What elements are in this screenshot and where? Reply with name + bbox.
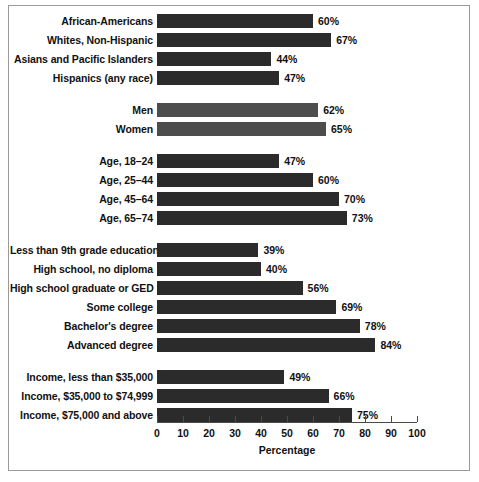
bar-value-label: 47%	[284, 154, 305, 168]
bar-row: Age, 45–6470%	[0, 192, 479, 206]
bar-value-label: 75%	[357, 408, 378, 422]
bar-row: Age, 65–7473%	[0, 211, 479, 225]
bar	[157, 408, 352, 422]
bar-row: Hispanics (any race)47%	[0, 71, 479, 85]
bar-value-label: 65%	[331, 122, 352, 136]
bar-category-label: High school, no diploma	[10, 262, 153, 276]
bar-value-label: 49%	[289, 370, 310, 384]
bar-category-label: Advanced degree	[10, 338, 153, 352]
bar	[157, 319, 360, 333]
chart-figure: African-Americans60%Whites, Non-Hispanic…	[0, 0, 479, 482]
x-tick	[235, 416, 236, 422]
bar-value-label: 66%	[334, 389, 355, 403]
bar-category-label: Less than 9th grade education	[10, 243, 153, 257]
bar	[157, 192, 339, 206]
x-tick	[339, 416, 340, 422]
bar-row: Age, 25–4460%	[0, 173, 479, 187]
bar-category-label: Bachelor's degree	[10, 319, 153, 333]
bar-value-label: 62%	[323, 103, 344, 117]
bar	[157, 370, 284, 384]
bar-row: Women65%	[0, 122, 479, 136]
bar-value-label: 73%	[352, 211, 373, 225]
bar-category-label: Age, 25–44	[10, 173, 153, 187]
bar	[157, 389, 329, 403]
x-tick	[287, 416, 288, 422]
bar-category-label: Income, $75,000 and above	[10, 408, 153, 422]
bar-value-label: 60%	[318, 173, 339, 187]
bar-row: Some college69%	[0, 300, 479, 314]
bar	[157, 103, 318, 117]
bar-category-label: Income, less than $35,000	[10, 370, 153, 384]
bar-value-label: 69%	[341, 300, 362, 314]
x-tick	[157, 416, 158, 422]
bar-row: Bachelor's degree78%	[0, 319, 479, 333]
bar-row: Income, $75,000 and above75%	[0, 408, 479, 422]
x-tick	[209, 416, 210, 422]
bar	[157, 281, 303, 295]
plot-area: African-Americans60%Whites, Non-Hispanic…	[0, 0, 479, 482]
bar	[157, 243, 258, 257]
bar-value-label: 84%	[380, 338, 401, 352]
x-tick	[183, 416, 184, 422]
x-tick	[313, 416, 314, 422]
bar-row: Age, 18–2447%	[0, 154, 479, 168]
bar-row: High school, no diploma40%	[0, 262, 479, 276]
bar	[157, 338, 375, 352]
bar-value-label: 78%	[365, 319, 386, 333]
bar	[157, 154, 279, 168]
bar-row: Income, less than $35,00049%	[0, 370, 479, 384]
bar	[157, 173, 313, 187]
bar-category-label: Hispanics (any race)	[10, 71, 153, 85]
bar-value-label: 56%	[308, 281, 329, 295]
x-tick	[391, 416, 392, 422]
bar-row: Men62%	[0, 103, 479, 117]
bar-value-label: 44%	[276, 52, 297, 66]
bar	[157, 211, 347, 225]
bar	[157, 14, 313, 28]
bar-value-label: 67%	[336, 33, 357, 47]
bar-row: High school graduate or GED56%	[0, 281, 479, 295]
bar	[157, 262, 261, 276]
bar-row: Whites, Non-Hispanic67%	[0, 33, 479, 47]
x-tick	[365, 416, 366, 422]
bar-category-label: Income, $35,000 to $74,999	[10, 389, 153, 403]
bar	[157, 52, 271, 66]
x-axis-title: Percentage	[157, 444, 417, 456]
bar	[157, 71, 279, 85]
bar-row: Asians and Pacific Islanders44%	[0, 52, 479, 66]
bar	[157, 33, 331, 47]
x-tick	[261, 416, 262, 422]
bar-category-label: Asians and Pacific Islanders	[10, 52, 153, 66]
bar-value-label: 39%	[263, 243, 284, 257]
bar-category-label: Age, 45–64	[10, 192, 153, 206]
x-tick	[417, 416, 418, 422]
bar-category-label: Some college	[10, 300, 153, 314]
bar-value-label: 70%	[344, 192, 365, 206]
bar-row: Advanced degree84%	[0, 338, 479, 352]
bar-category-label: Age, 65–74	[10, 211, 153, 225]
bar-row: Income, $35,000 to $74,99966%	[0, 389, 479, 403]
bar-category-label: High school graduate or GED	[10, 281, 153, 295]
bar-value-label: 60%	[318, 14, 339, 28]
bar-category-label: Women	[10, 122, 153, 136]
bar-category-label: Age, 18–24	[10, 154, 153, 168]
bar-category-label: Men	[10, 103, 153, 117]
x-axis-line	[157, 422, 417, 423]
bar-category-label: African-Americans	[10, 14, 153, 28]
bar-category-label: Whites, Non-Hispanic	[10, 33, 153, 47]
bar-row: African-Americans60%	[0, 14, 479, 28]
bar	[157, 122, 326, 136]
bar	[157, 300, 336, 314]
bar-value-label: 47%	[284, 71, 305, 85]
bar-row: Less than 9th grade education39%	[0, 243, 479, 257]
bar-value-label: 40%	[266, 262, 287, 276]
x-tick-label: 100	[402, 426, 432, 440]
